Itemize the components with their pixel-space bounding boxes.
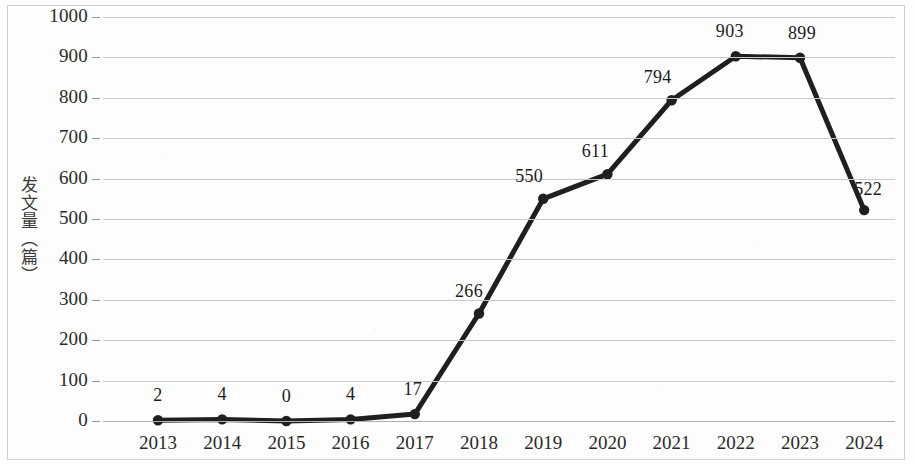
gridline-500 bbox=[103, 219, 895, 220]
x-tick-label-2017: 2017 bbox=[380, 432, 450, 454]
data-point-2017 bbox=[410, 409, 420, 419]
x-tick-label-2019: 2019 bbox=[508, 432, 578, 454]
data-label-2023: 899 bbox=[788, 23, 816, 44]
data-label-2022: 903 bbox=[716, 21, 744, 42]
data-point-2019 bbox=[538, 194, 548, 204]
series-markers bbox=[153, 51, 870, 426]
y-tick-label: 200 bbox=[0, 328, 88, 350]
data-label-2019: 550 bbox=[515, 166, 543, 187]
gridline-600 bbox=[103, 179, 895, 180]
data-point-2014 bbox=[217, 414, 227, 424]
data-label-2013: 2 bbox=[153, 385, 162, 406]
x-tick-label-2013: 2013 bbox=[123, 432, 193, 454]
data-label-2015: 0 bbox=[282, 386, 291, 407]
data-point-2022 bbox=[731, 51, 741, 61]
y-tick-label: 900 bbox=[0, 45, 88, 67]
gridline-400 bbox=[103, 259, 895, 260]
y-tick-mark bbox=[92, 179, 100, 180]
plot-area bbox=[103, 17, 895, 421]
y-tick-mark bbox=[92, 300, 100, 301]
series-polyline bbox=[158, 56, 864, 421]
x-tick-label-2014: 2014 bbox=[187, 432, 257, 454]
y-tick-label: 300 bbox=[0, 288, 88, 310]
gridline-100 bbox=[103, 381, 895, 382]
y-tick-mark bbox=[92, 57, 100, 58]
gridline-700 bbox=[103, 138, 895, 139]
gridline-300 bbox=[103, 300, 895, 301]
data-label-2024: 522 bbox=[854, 179, 882, 200]
gridline-900 bbox=[103, 57, 895, 58]
y-tick-label: 1000 bbox=[0, 5, 88, 27]
data-label-2021: 794 bbox=[644, 67, 672, 88]
x-tick-label-2015: 2015 bbox=[251, 432, 321, 454]
y-tick-label: 700 bbox=[0, 126, 88, 148]
gridline-0 bbox=[103, 421, 895, 422]
data-label-2020: 611 bbox=[582, 141, 609, 162]
x-tick-label-2020: 2020 bbox=[572, 432, 642, 454]
y-tick-mark bbox=[92, 259, 100, 260]
y-tick-mark bbox=[92, 340, 100, 341]
y-tick-label: 800 bbox=[0, 86, 88, 108]
x-tick-label-2018: 2018 bbox=[444, 432, 514, 454]
y-tick-mark bbox=[92, 138, 100, 139]
data-label-2018: 266 bbox=[455, 281, 483, 302]
x-tick-label-2024: 2024 bbox=[829, 432, 899, 454]
gridline-200 bbox=[103, 340, 895, 341]
data-point-2024 bbox=[859, 205, 869, 215]
data-label-2016: 4 bbox=[346, 384, 355, 405]
y-tick-mark bbox=[92, 219, 100, 220]
x-tick-label-2023: 2023 bbox=[765, 432, 835, 454]
data-label-2017: 17 bbox=[403, 379, 422, 400]
x-tick-label-2021: 2021 bbox=[637, 432, 707, 454]
x-tick-label-2022: 2022 bbox=[701, 432, 771, 454]
data-point-2021 bbox=[666, 95, 676, 105]
y-tick-label: 0 bbox=[0, 409, 88, 431]
y-tick-label: 100 bbox=[0, 369, 88, 391]
y-tick-mark bbox=[92, 421, 100, 422]
y-tick-mark bbox=[92, 98, 100, 99]
chart-figure: 发文量（篇） 10009008007006005004003002001000 … bbox=[0, 0, 915, 464]
y-axis-title: 发文量（篇） bbox=[6, 176, 36, 284]
gridline-1000 bbox=[103, 17, 895, 18]
x-tick-label-2016: 2016 bbox=[316, 432, 386, 454]
data-point-2016 bbox=[345, 414, 355, 424]
y-tick-mark bbox=[92, 17, 100, 18]
data-point-2018 bbox=[474, 308, 484, 318]
y-tick-mark bbox=[92, 381, 100, 382]
gridline-800 bbox=[103, 98, 895, 99]
data-label-2014: 4 bbox=[218, 384, 227, 405]
